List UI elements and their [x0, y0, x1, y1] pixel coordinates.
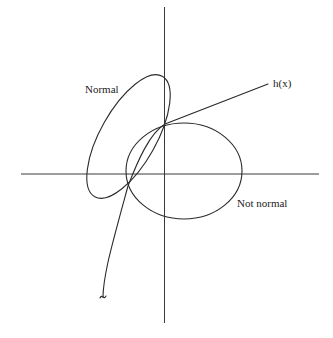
h-of-x-curve	[103, 84, 268, 297]
diagram-figure: Normal h(x) Not normal	[0, 0, 333, 338]
curve-end-mark	[100, 296, 106, 298]
not-normal-ellipse	[126, 123, 242, 219]
normal-label: Normal	[85, 83, 119, 95]
not-normal-label: Not normal	[237, 197, 287, 209]
h-of-x-label: h(x)	[273, 77, 292, 90]
